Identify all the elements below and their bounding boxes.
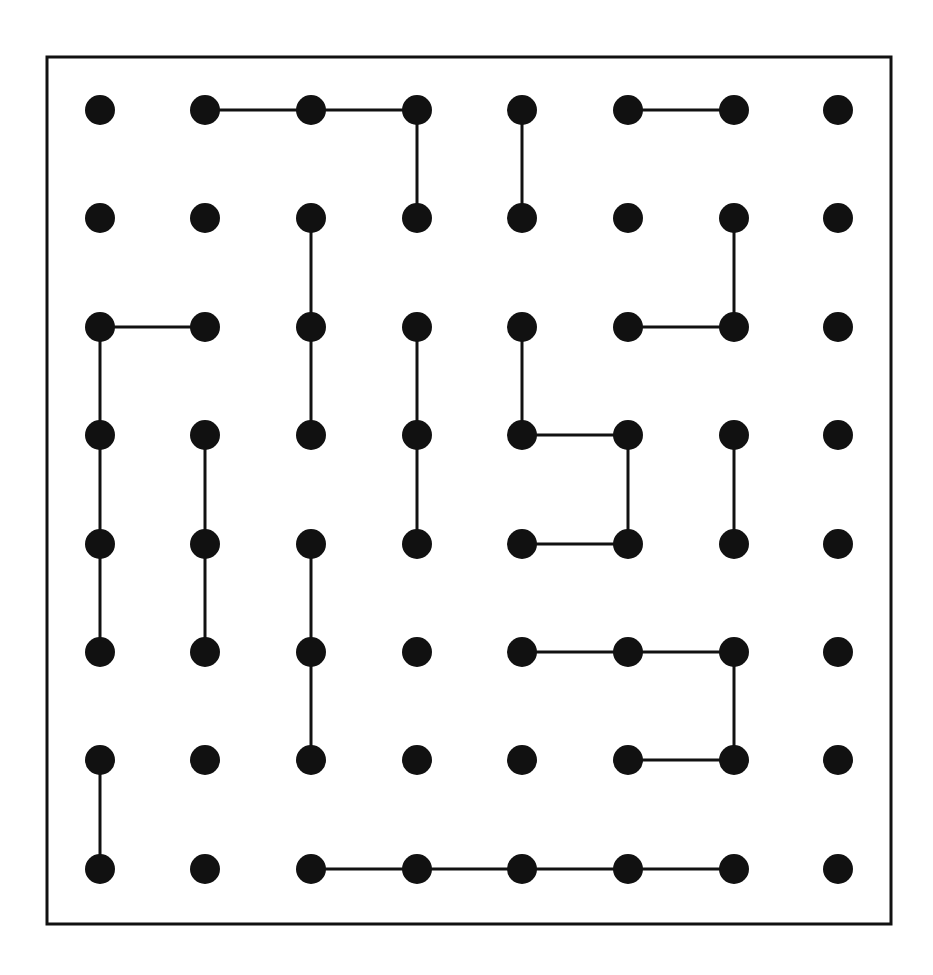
grid-dot xyxy=(190,203,220,233)
grid-dot xyxy=(823,529,853,559)
grid-dot xyxy=(402,854,432,884)
grid-dot xyxy=(613,637,643,667)
grid-dot xyxy=(402,95,432,125)
grid-dot xyxy=(85,854,115,884)
grid-dot xyxy=(613,312,643,342)
grid-dot xyxy=(507,95,537,125)
grid-dot xyxy=(85,95,115,125)
grid-dot xyxy=(296,854,326,884)
dot-grid-diagram xyxy=(0,0,933,975)
grid-dot xyxy=(190,637,220,667)
grid-dot xyxy=(402,529,432,559)
grid-dot xyxy=(823,637,853,667)
grid-dot xyxy=(402,637,432,667)
grid-dot xyxy=(296,203,326,233)
grid-dot xyxy=(507,637,537,667)
grid-dot xyxy=(296,312,326,342)
grid-dot xyxy=(719,312,749,342)
grid-dot xyxy=(85,203,115,233)
grid-dot xyxy=(719,854,749,884)
grid-dot xyxy=(719,203,749,233)
grid-dots xyxy=(85,95,853,884)
grid-dot xyxy=(613,529,643,559)
grid-dot xyxy=(823,420,853,450)
grid-dot xyxy=(85,745,115,775)
grid-dot xyxy=(296,529,326,559)
grid-dot xyxy=(507,854,537,884)
grid-dot xyxy=(85,637,115,667)
grid-dot xyxy=(823,95,853,125)
grid-dot xyxy=(85,312,115,342)
grid-dot xyxy=(613,203,643,233)
grid-dot xyxy=(719,637,749,667)
grid-dot xyxy=(823,203,853,233)
grid-dot xyxy=(296,95,326,125)
grid-dot xyxy=(85,420,115,450)
grid-dot xyxy=(507,203,537,233)
grid-dot xyxy=(190,745,220,775)
grid-dot xyxy=(296,637,326,667)
grid-dot xyxy=(823,854,853,884)
grid-dot xyxy=(823,312,853,342)
grid-dot xyxy=(190,529,220,559)
grid-dot xyxy=(719,529,749,559)
grid-dot xyxy=(190,95,220,125)
grid-dot xyxy=(719,95,749,125)
border-frame xyxy=(47,57,891,924)
grid-dot xyxy=(823,745,853,775)
grid-dot xyxy=(402,312,432,342)
grid-dot xyxy=(507,420,537,450)
grid-dot xyxy=(190,420,220,450)
grid-dot xyxy=(507,312,537,342)
grid-dot xyxy=(402,420,432,450)
grid-dot xyxy=(296,745,326,775)
grid-dot xyxy=(613,745,643,775)
grid-dot xyxy=(190,854,220,884)
grid-dot xyxy=(402,203,432,233)
grid-dot xyxy=(190,312,220,342)
grid-dot xyxy=(613,95,643,125)
grid-dot xyxy=(613,854,643,884)
grid-dot xyxy=(296,420,326,450)
grid-dot xyxy=(402,745,432,775)
grid-dot xyxy=(507,745,537,775)
grid-dot xyxy=(613,420,643,450)
grid-dot xyxy=(507,529,537,559)
grid-dot xyxy=(719,745,749,775)
grid-dot xyxy=(719,420,749,450)
grid-dot xyxy=(85,529,115,559)
